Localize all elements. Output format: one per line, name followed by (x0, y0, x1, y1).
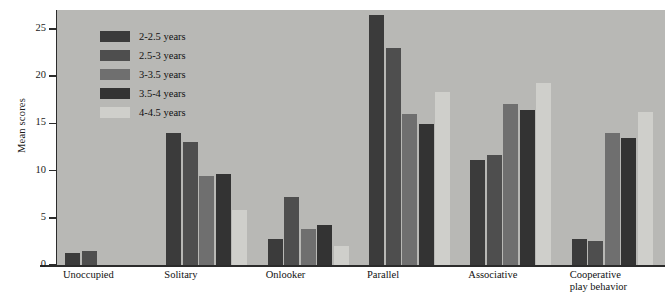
legend-label: 4-4.5 years (139, 107, 186, 118)
bar (588, 241, 603, 265)
bar (301, 229, 316, 265)
legend-label: 2-2.5 years (139, 31, 186, 42)
x-axis-label: Unoccupied (63, 269, 114, 281)
y-tick-label: 15 (22, 117, 46, 128)
bar (268, 239, 283, 265)
legend-label: 3-3.5 years (139, 69, 186, 80)
bar (232, 210, 247, 265)
x-axis-label: Solitary (164, 269, 197, 281)
bar-group (361, 10, 462, 265)
bar (386, 48, 401, 265)
bar (435, 92, 450, 265)
bar (470, 160, 485, 265)
legend-item: 4-4.5 years (100, 104, 186, 121)
bar (284, 197, 299, 265)
bar-group (462, 10, 563, 265)
legend-swatch (100, 50, 130, 61)
bar-group (260, 10, 361, 265)
bar (572, 239, 587, 265)
y-tick-label: 0 (22, 259, 46, 270)
y-tick-mark (49, 123, 57, 125)
legend-item: 3-3.5 years (100, 66, 186, 83)
bar (503, 104, 518, 265)
legend-swatch (100, 107, 130, 118)
y-tick-label: 10 (22, 165, 46, 176)
y-tick-mark (49, 264, 57, 266)
x-axis-label: Associative (468, 269, 517, 281)
legend-label: 2.5-3 years (139, 50, 186, 61)
bar (369, 15, 384, 265)
y-tick-mark (49, 75, 57, 77)
legend-label: 3.5-4 years (139, 88, 186, 99)
bar-chart: Mean scores 0510152025 UnoccupiedSolitar… (0, 0, 669, 299)
y-tick-mark (49, 28, 57, 30)
legend-swatch (100, 31, 130, 42)
bar (638, 112, 653, 265)
bar (317, 225, 332, 265)
bar (216, 174, 231, 265)
bar (334, 246, 349, 265)
bar (402, 114, 417, 265)
x-axis-label: Cooperative play behavior (570, 269, 627, 292)
y-tick-label: 25 (22, 23, 46, 34)
legend-item: 3.5-4 years (100, 85, 186, 102)
legend-swatch (100, 69, 130, 80)
bar (419, 124, 434, 265)
bar (199, 176, 214, 265)
y-tick-mark (49, 217, 57, 219)
bar (82, 251, 97, 265)
y-tick-mark (49, 170, 57, 172)
legend-item: 2.5-3 years (100, 47, 186, 64)
legend: 2-2.5 years2.5-3 years3-3.5 years3.5-4 y… (100, 28, 186, 123)
legend-item: 2-2.5 years (100, 28, 186, 45)
bar (487, 155, 502, 266)
y-tick-label: 5 (22, 212, 46, 223)
x-axis-line (40, 265, 665, 267)
bar (621, 138, 636, 266)
bar-group (564, 10, 665, 265)
bar (520, 110, 535, 265)
bar (536, 83, 551, 265)
x-axis-label: Parallel (367, 269, 399, 281)
bar (183, 142, 198, 265)
legend-swatch (100, 88, 130, 99)
bar (605, 133, 620, 265)
bar (166, 133, 181, 265)
y-tick-label: 20 (22, 70, 46, 81)
bar (65, 253, 80, 265)
x-axis-label: Onlooker (266, 269, 306, 281)
